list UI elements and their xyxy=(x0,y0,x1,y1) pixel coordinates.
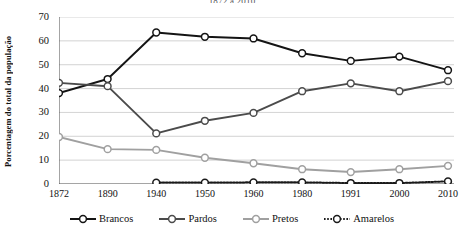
data-point-marker[interactable] xyxy=(153,29,160,36)
x-axis-tick-label: 2000 xyxy=(389,188,409,199)
data-point-marker[interactable] xyxy=(347,58,354,65)
data-point-marker[interactable] xyxy=(445,162,452,169)
data-point-marker[interactable] xyxy=(250,179,257,184)
x-axis-tick-label: 2010 xyxy=(438,188,458,199)
data-point-marker[interactable] xyxy=(396,53,403,60)
plot-svg xyxy=(59,17,454,184)
legend-label: Pretos xyxy=(272,213,298,224)
data-point-marker[interactable] xyxy=(396,166,403,173)
data-point-marker[interactable] xyxy=(153,146,160,153)
x-axis-tick-label: 1940 xyxy=(146,188,166,199)
data-point-marker[interactable] xyxy=(59,90,62,97)
data-point-marker[interactable] xyxy=(396,180,403,184)
data-point-marker[interactable] xyxy=(104,76,111,83)
series-layer xyxy=(59,29,451,184)
data-point-marker[interactable] xyxy=(445,67,452,74)
data-point-marker[interactable] xyxy=(59,79,62,86)
y-axis-tick-label: 50 xyxy=(27,59,49,70)
data-point-marker[interactable] xyxy=(396,88,403,95)
x-axis-tick-label: 1890 xyxy=(98,188,118,199)
plot-area xyxy=(59,17,454,184)
x-axis-tick-label: 1991 xyxy=(341,188,361,199)
legend-marker-icon xyxy=(159,214,185,224)
chart-title: 1872 a 2010 xyxy=(0,0,464,3)
series-line xyxy=(59,81,448,133)
legend-label: Pardos xyxy=(188,213,217,224)
y-axis-title: Porcentagem do total da população xyxy=(1,14,15,189)
chart-figure: 1872 a 2010 Porcentagem do total da popu… xyxy=(0,0,464,235)
x-axis-tick-label: 1950 xyxy=(195,188,215,199)
data-point-marker[interactable] xyxy=(347,180,354,184)
data-point-marker[interactable] xyxy=(201,117,208,124)
x-axis-tick-label: 1960 xyxy=(244,188,264,199)
legend-item-brancos[interactable]: Brancos xyxy=(70,213,133,224)
data-point-marker[interactable] xyxy=(299,166,306,173)
data-point-marker[interactable] xyxy=(250,35,257,42)
legend-marker-icon xyxy=(70,214,96,224)
legend-item-amarelos[interactable]: Amarelos xyxy=(324,213,394,224)
y-axis-tick-labels: 010203040506070 xyxy=(27,17,49,184)
y-axis-tick-label: 40 xyxy=(27,83,49,94)
data-point-marker[interactable] xyxy=(299,50,306,57)
y-axis-tick-label: 20 xyxy=(27,131,49,142)
y-axis-tick-label: 0 xyxy=(27,179,49,190)
data-point-marker[interactable] xyxy=(299,179,306,184)
data-point-marker[interactable] xyxy=(59,134,62,141)
data-point-marker[interactable] xyxy=(347,169,354,176)
data-point-marker[interactable] xyxy=(445,78,452,85)
legend-marker-icon xyxy=(243,214,269,224)
legend-item-pretos[interactable]: Pretos xyxy=(243,213,298,224)
y-axis-tick-label: 30 xyxy=(27,107,49,118)
data-point-marker[interactable] xyxy=(250,110,257,117)
data-point-marker[interactable] xyxy=(104,146,111,153)
legend-item-pardos[interactable]: Pardos xyxy=(159,213,217,224)
gridlines xyxy=(59,17,454,184)
y-axis-tick-label: 60 xyxy=(27,36,49,47)
legend-label: Amarelos xyxy=(353,213,394,224)
data-point-marker[interactable] xyxy=(201,154,208,161)
data-point-marker[interactable] xyxy=(347,80,354,87)
chart-legend: BrancosPardosPretosAmarelos xyxy=(0,213,464,224)
data-point-marker[interactable] xyxy=(153,130,160,137)
data-point-marker[interactable] xyxy=(104,83,111,90)
data-point-marker[interactable] xyxy=(299,88,306,95)
y-axis-tick-label: 70 xyxy=(27,12,49,23)
x-axis-tick-label: 1872 xyxy=(49,188,69,199)
legend-label: Brancos xyxy=(99,213,133,224)
data-point-marker[interactable] xyxy=(153,179,160,184)
data-point-marker[interactable] xyxy=(445,178,452,184)
x-axis-tick-label: 1980 xyxy=(292,188,312,199)
y-axis-tick-label: 10 xyxy=(27,155,49,166)
legend-marker-icon xyxy=(324,214,350,224)
data-point-marker[interactable] xyxy=(250,160,257,167)
data-point-marker[interactable] xyxy=(201,33,208,40)
data-point-marker[interactable] xyxy=(201,179,208,184)
